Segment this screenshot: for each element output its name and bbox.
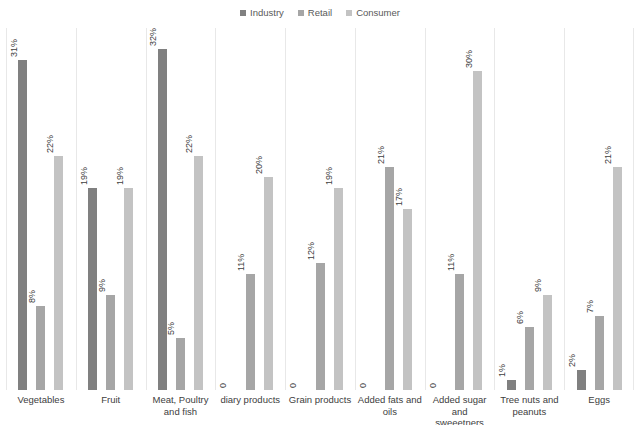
bar-value-label: 19%: [80, 167, 89, 185]
bar-value-label: 12%: [307, 242, 316, 260]
bar[interactable]: [246, 274, 255, 391]
bar-slot: 11%: [246, 28, 255, 391]
category-label: Tree nuts and peanuts: [494, 394, 564, 424]
bar-value-label: 7%: [586, 300, 595, 313]
bar-value-label: 0: [289, 383, 298, 388]
legend-entry[interactable]: Consumer: [346, 8, 400, 18]
chart-legend: IndustryRetailConsumer: [0, 8, 640, 18]
legend-label: Retail: [308, 8, 332, 18]
bar-slot: 22%: [54, 28, 63, 391]
bar-slot: 21%: [613, 28, 622, 391]
category-label: Grain products: [285, 394, 355, 424]
bar-value-label: 0: [219, 383, 228, 388]
bar-slot: 6%: [525, 28, 534, 391]
bar-value-label: 5%: [167, 322, 176, 335]
bar[interactable]: [403, 209, 412, 391]
bar[interactable]: [18, 60, 27, 391]
bar-value-label: 9%: [534, 279, 543, 292]
bar-slot: 9%: [543, 28, 552, 391]
bar[interactable]: [124, 188, 133, 391]
bar[interactable]: [595, 316, 604, 391]
bar-slot: 0: [228, 28, 237, 391]
bar-group: 012%19%: [285, 28, 355, 391]
category-label: Added fats and oils: [355, 394, 425, 424]
bar-value-label: 8%: [28, 290, 37, 303]
bar-slot: 0: [298, 28, 307, 391]
category-label: Added sugar and sweeetners: [425, 394, 495, 424]
bar[interactable]: [106, 295, 115, 391]
bar-group: 021%17%: [355, 28, 425, 391]
category-label: Meat, Poultry and fish: [146, 394, 216, 424]
bar-slot: 5%: [176, 28, 185, 391]
category-label: Fruit: [76, 394, 146, 424]
bar-slot: 22%: [194, 28, 203, 391]
legend-label: Industry: [250, 8, 284, 18]
bar-value-label: 0: [359, 383, 368, 388]
bar-slot: 9%: [106, 28, 115, 391]
bar[interactable]: [334, 188, 343, 391]
bar[interactable]: [316, 263, 325, 391]
bar-value-label: 6%: [516, 311, 525, 324]
bar[interactable]: [88, 188, 97, 391]
bar-value-label: 22%: [185, 135, 194, 153]
bar-value-label: 17%: [395, 188, 404, 206]
bar[interactable]: [525, 327, 534, 391]
bar-slot: 19%: [334, 28, 343, 391]
bar-value-label: 11%: [447, 254, 456, 271]
bar-slot: 7%: [595, 28, 604, 391]
legend-swatch-icon: [346, 10, 352, 16]
legend-entry[interactable]: Retail: [298, 8, 332, 18]
bar[interactable]: [176, 338, 185, 391]
category-label: diary products: [215, 394, 285, 424]
plot-area: 31%8%22%19%9%19%32%5%22%011%20%012%19%02…: [6, 28, 634, 391]
bar-value-label: 19%: [325, 167, 334, 185]
bar-slot: 19%: [88, 28, 97, 391]
bar-group: 1%6%9%: [494, 28, 564, 391]
bar-value-label: 30%: [465, 50, 474, 68]
bar-slot: 0: [367, 28, 376, 391]
bar[interactable]: [543, 295, 552, 391]
bar[interactable]: [385, 167, 394, 391]
bar-slot: 12%: [316, 28, 325, 391]
bar-value-label: 2%: [568, 354, 577, 367]
category-label: Vegetables: [6, 394, 76, 424]
bar-value-label: 11%: [237, 254, 246, 271]
legend-label: Consumer: [356, 8, 400, 18]
bar[interactable]: [473, 71, 482, 391]
bar-slot: 0: [437, 28, 446, 391]
bar-slot: 20%: [264, 28, 273, 391]
bar[interactable]: [613, 167, 622, 391]
bar-value-label: 19%: [116, 167, 125, 185]
bar-slot: 31%: [18, 28, 27, 391]
bar[interactable]: [455, 274, 464, 391]
legend-entry[interactable]: Industry: [240, 8, 284, 18]
bar-group: 19%9%19%: [76, 28, 146, 391]
legend-swatch-icon: [240, 10, 246, 16]
bar-slot: 17%: [403, 28, 412, 391]
bar[interactable]: [264, 177, 273, 391]
bar[interactable]: [36, 306, 45, 391]
bar-group: 011%20%: [215, 28, 285, 391]
bar-group: 32%5%22%: [146, 28, 216, 391]
bar-slot: 30%: [473, 28, 482, 391]
bar-slot: 32%: [158, 28, 167, 391]
bar-value-label: 20%: [255, 156, 264, 174]
bar-group: 31%8%22%: [6, 28, 76, 391]
bar-value-label: 22%: [46, 135, 55, 153]
bar-slot: 2%: [577, 28, 586, 391]
bar[interactable]: [577, 370, 586, 391]
category-label: Eggs: [564, 394, 634, 424]
bar[interactable]: [194, 156, 203, 391]
bar-slot: 1%: [507, 28, 516, 391]
bar-slot: 19%: [124, 28, 133, 391]
legend-swatch-icon: [298, 10, 304, 16]
bar[interactable]: [54, 156, 63, 391]
bar-value-label: 1%: [498, 364, 507, 377]
bar-value-label: 21%: [377, 146, 386, 164]
bar-group: 2%7%21%: [564, 28, 634, 391]
bar-slot: 8%: [36, 28, 45, 391]
bar[interactable]: [158, 49, 167, 391]
bar-group: 011%30%: [425, 28, 495, 391]
bar-value-label: 31%: [10, 39, 19, 57]
bar-slot: 11%: [455, 28, 464, 391]
